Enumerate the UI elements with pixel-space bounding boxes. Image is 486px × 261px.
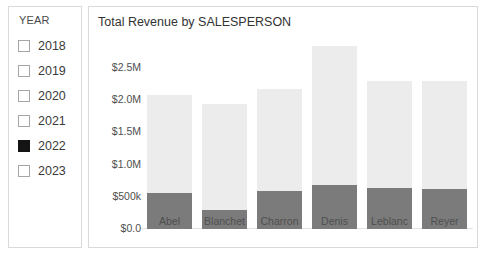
y-axis-tick-label: $1.5M bbox=[81, 126, 141, 137]
slicer-item-label: 2022 bbox=[38, 139, 66, 153]
year-slicer[interactable]: YEAR 201820192020202120222023 bbox=[8, 6, 82, 248]
checkbox-unchecked-icon[interactable] bbox=[18, 65, 30, 77]
bar-segment-faded[interactable] bbox=[202, 104, 247, 210]
report-canvas: YEAR 201820192020202120222023 Total Reve… bbox=[0, 0, 486, 261]
slicer-item-2020[interactable]: 2020 bbox=[18, 83, 81, 108]
bar-stack[interactable] bbox=[202, 104, 247, 229]
bar-segment-faded[interactable] bbox=[367, 81, 412, 188]
checkbox-checked-icon[interactable] bbox=[18, 140, 30, 152]
bar-segment-faded[interactable] bbox=[312, 46, 357, 185]
chart-panel: Total Revenue by SALESPERSON $0.0$500k$1… bbox=[88, 6, 478, 248]
bar-stack[interactable] bbox=[312, 46, 357, 229]
y-axis-tick-label: $2.5M bbox=[81, 62, 141, 73]
y-axis-tick-label: $1.0M bbox=[81, 159, 141, 170]
checkbox-unchecked-icon[interactable] bbox=[18, 165, 30, 177]
checkbox-unchecked-icon[interactable] bbox=[18, 40, 30, 52]
bar-stack[interactable] bbox=[147, 95, 192, 229]
bar-stack[interactable] bbox=[367, 81, 412, 229]
slicer-title: YEAR bbox=[19, 14, 81, 27]
slicer-item-2021[interactable]: 2021 bbox=[18, 108, 81, 133]
slicer-item-label: 2021 bbox=[38, 114, 66, 128]
bar-stack[interactable] bbox=[257, 89, 302, 229]
x-axis-tick-label: Reyer bbox=[412, 215, 477, 227]
y-axis-tick-label: $2.0M bbox=[81, 94, 141, 105]
y-axis-tick-label: $500k bbox=[81, 191, 141, 202]
plot-area: $0.0$500k$1.0M$1.5M$2.0M$2.5M AbelBlanch… bbox=[89, 7, 477, 247]
bar-segment-faded[interactable] bbox=[422, 81, 467, 189]
slicer-item-label: 2023 bbox=[38, 164, 66, 178]
y-axis-tick-label: $0.0 bbox=[81, 223, 141, 234]
slicer-item-label: 2019 bbox=[38, 64, 66, 78]
slicer-item-label: 2018 bbox=[38, 39, 66, 53]
slicer-item-label: 2020 bbox=[38, 89, 66, 103]
slicer-item-2022[interactable]: 2022 bbox=[18, 133, 81, 158]
slicer-item-2023[interactable]: 2023 bbox=[18, 158, 81, 183]
bar-segment-faded[interactable] bbox=[147, 95, 192, 193]
slicer-item-2018[interactable]: 2018 bbox=[18, 33, 81, 58]
slicer-item-list: 201820192020202120222023 bbox=[18, 33, 81, 183]
checkbox-unchecked-icon[interactable] bbox=[18, 90, 30, 102]
checkbox-unchecked-icon[interactable] bbox=[18, 115, 30, 127]
bar-segment-faded[interactable] bbox=[257, 89, 302, 191]
bar-stack[interactable] bbox=[422, 81, 467, 229]
slicer-item-2019[interactable]: 2019 bbox=[18, 58, 81, 83]
bar-series: AbelBlanchetCharronDenisLeblancReyer bbox=[142, 7, 472, 247]
